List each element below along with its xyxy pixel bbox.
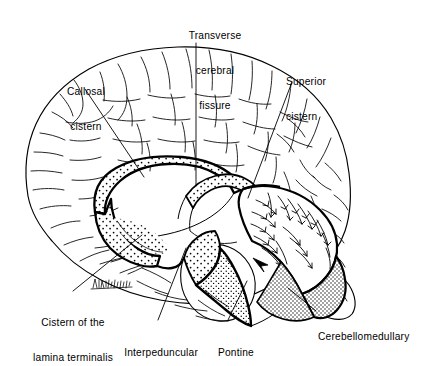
label-line: fissure (155, 100, 275, 112)
label-line: Cerebellomedullary (318, 331, 426, 343)
label-line: Superior (286, 76, 396, 88)
label-superior-cistern: Superior cistern (286, 53, 396, 146)
label-line: Callosal (36, 86, 136, 98)
label-transverse-cerebral-fissure: Transverse cerebral fissure (155, 7, 275, 135)
label-callosal-cistern: Callosal cistern (36, 63, 136, 156)
label-cerebellomedullary-cistern: Cerebellomedullary cistern (cisterna mag… (318, 308, 426, 366)
label-line: cistern (36, 121, 136, 133)
label-line: Transverse (155, 30, 275, 42)
label-pontine-cistern: Pontine cistern (196, 324, 276, 366)
label-line: Pontine (196, 347, 276, 359)
label-line: Interpeduncular (78, 347, 198, 359)
label-interpeduncular-cistern: Interpeduncular cistern (78, 324, 198, 366)
label-line: cistern (286, 111, 396, 123)
brain-cistern-diagram: Transverse cerebral fissure Callosal cis… (0, 0, 426, 366)
label-line: cerebral (155, 65, 275, 77)
